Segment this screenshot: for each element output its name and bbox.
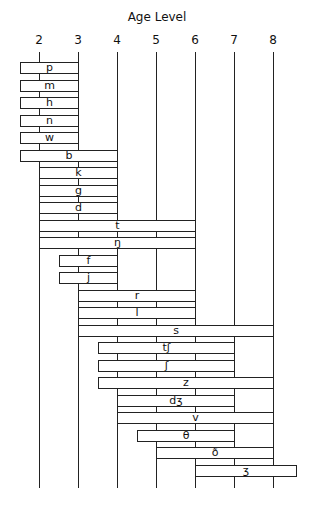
bar-label: k	[40, 166, 117, 180]
range-bar: w	[20, 132, 79, 144]
range-bar: ʃ	[98, 360, 235, 372]
chart-title: Age Level	[0, 10, 314, 24]
bar-label: v	[118, 411, 273, 425]
bar-label: j	[60, 271, 117, 285]
range-bar: t	[39, 220, 196, 232]
bar-label: n	[21, 114, 78, 128]
range-bar: ŋ	[39, 237, 196, 249]
range-bar: b	[20, 150, 118, 162]
bar-label: f	[60, 254, 117, 268]
x-tick-label: 4	[107, 33, 127, 47]
bar-label: l	[79, 306, 195, 320]
range-bar: θ	[137, 430, 235, 442]
range-bar: j	[59, 272, 118, 284]
bar-label: w	[21, 131, 78, 145]
x-tick-label: 2	[29, 33, 49, 47]
bar-label: m	[21, 79, 78, 93]
range-bar: d	[39, 202, 118, 214]
bar-label: d	[40, 201, 117, 215]
bar-label: s	[79, 324, 273, 338]
x-tick-label: 7	[224, 33, 244, 47]
range-bar: k	[39, 167, 118, 179]
bar-label: p	[21, 61, 78, 75]
phoneme-age-chart: Age Level 2345678 pmhnwbkgdtŋfjrlstʃʃzdʒ…	[0, 0, 314, 505]
bar-label: h	[21, 96, 78, 110]
range-bar: g	[39, 185, 118, 197]
range-bar: ð	[156, 447, 274, 459]
bar-label: dʒ	[118, 394, 234, 408]
range-bar: p	[20, 62, 79, 74]
range-bar: s	[78, 325, 274, 337]
bar-label: ŋ	[40, 236, 195, 250]
bar-label: θ	[138, 429, 234, 443]
range-bar: f	[59, 255, 118, 267]
bar-label: ʒ	[196, 464, 296, 478]
bar-label: ð	[157, 446, 273, 460]
x-tick-label: 8	[263, 33, 283, 47]
bar-label: z	[99, 376, 273, 390]
range-bar: ʒ	[195, 465, 297, 477]
bar-label: b	[21, 149, 117, 163]
bar-label: r	[79, 289, 195, 303]
bar-label: g	[40, 184, 117, 198]
x-tick-label: 5	[146, 33, 166, 47]
range-bar: m	[20, 80, 79, 92]
range-bar: n	[20, 115, 79, 127]
range-bar: z	[98, 377, 274, 389]
x-tick-label: 3	[68, 33, 88, 47]
bar-label: tʃ	[99, 341, 234, 355]
range-bar: tʃ	[98, 342, 235, 354]
x-tick-label: 6	[185, 33, 205, 47]
range-bar: v	[117, 412, 274, 424]
bar-label: ʃ	[99, 359, 234, 373]
range-bar: l	[78, 307, 196, 319]
range-bar: r	[78, 290, 196, 302]
bar-label: t	[40, 219, 195, 233]
range-bar: dʒ	[117, 395, 235, 407]
range-bar: h	[20, 97, 79, 109]
